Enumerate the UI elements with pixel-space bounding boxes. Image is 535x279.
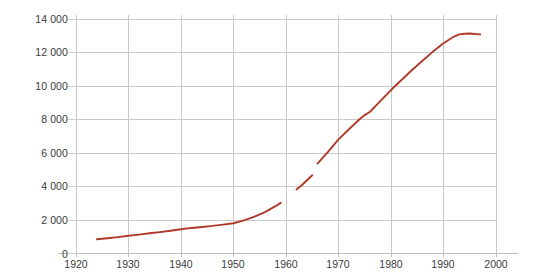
x-tick-label-1990: 1990 (421, 258, 465, 270)
x-tick-label-1950: 1950 (211, 258, 255, 270)
x-tick-label-1960: 1960 (264, 258, 308, 270)
x-tick-label-1970: 1970 (316, 258, 360, 270)
x-tick-label-2000: 2000 (474, 258, 518, 270)
x-tick-label-1920: 1920 (54, 258, 98, 270)
x-tick-label-1980: 1980 (369, 258, 413, 270)
x-axis-labels: 1920 1930 1940 1950 1960 1970 1980 1990 … (0, 0, 535, 279)
x-tick-label-1940: 1940 (159, 258, 203, 270)
line-chart: 14 000 12 000 10 000 8 000 6 000 4 000 2… (0, 0, 535, 279)
x-tick-label-1930: 1930 (106, 258, 150, 270)
